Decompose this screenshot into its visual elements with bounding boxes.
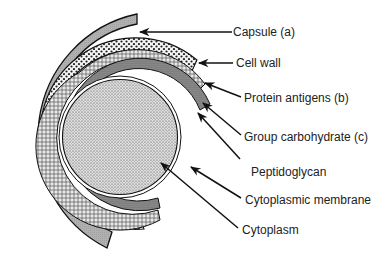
label-cell-wall: Cell wall xyxy=(236,56,281,70)
label-cytoplasm: Cytoplasm xyxy=(242,223,299,237)
label-protein-antigens: Protein antigens (b) xyxy=(244,91,349,105)
arrow-group-carbohydrate xyxy=(203,103,241,135)
arrow-peptidoglycan xyxy=(198,113,240,159)
cytoplasm-body xyxy=(63,80,178,195)
label-capsule: Capsule (a) xyxy=(233,25,295,39)
label-peptidoglycan: Peptidoglycan xyxy=(251,165,326,179)
label-group-carbohydrate: Group carbohydrate (c) xyxy=(244,130,368,144)
arrow-protein-antigens xyxy=(205,83,241,97)
label-cytoplasmic-membrane: Cytoplasmic membrane xyxy=(245,193,371,207)
arrow-cytoplasmic-membrane xyxy=(191,167,241,198)
